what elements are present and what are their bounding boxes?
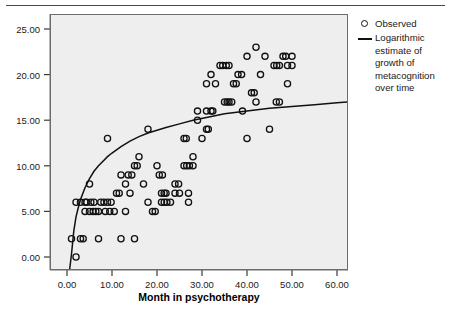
y-tick-label: 0.00 (0, 252, 40, 263)
y-tick-label: 20.00 (0, 69, 40, 80)
scatter-plot-figure: 0.005.0010.0015.0020.0025.00 0.0010.0020… (0, 0, 451, 320)
plot-area-frame (50, 14, 348, 270)
legend-item-observed: Observed (358, 18, 450, 31)
x-tick-label: 20.00 (145, 279, 169, 290)
legend-label-observed: Observed (375, 18, 417, 31)
x-tick-label: 30.00 (190, 279, 214, 290)
chart-legend: Observed Logarithmic estimate of growth … (358, 18, 450, 96)
x-tick-label: 40.00 (235, 279, 259, 290)
x-tick-label: 50.00 (280, 279, 304, 290)
x-tick-label: 10.00 (100, 279, 124, 290)
line-marker-icon (358, 32, 375, 45)
x-tick-label: 60.00 (325, 279, 349, 290)
y-tick-label: 25.00 (0, 24, 40, 35)
legend-item-logarithmic-estimate: Logarithmic estimate of growth of metaco… (358, 32, 450, 95)
circle-marker-icon (358, 18, 375, 31)
legend-label-logarithmic-estimate: Logarithmic estimate of growth of metaco… (375, 32, 450, 95)
y-tick-label: 5.00 (0, 206, 40, 217)
y-tick-label: 10.00 (0, 160, 40, 171)
y-tick-label: 15.00 (0, 115, 40, 126)
x-tick-label: 0.00 (58, 279, 77, 290)
x-axis-title: Month in psychotherapy (138, 291, 259, 303)
